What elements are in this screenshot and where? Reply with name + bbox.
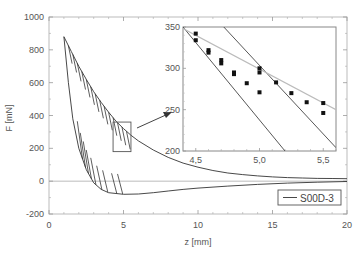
y-tick-label: 0 bbox=[39, 176, 44, 186]
y-axis-label: F [mN] bbox=[4, 105, 14, 132]
x-axis-label: z [mm] bbox=[185, 237, 212, 247]
sawtooth-spike bbox=[68, 46, 72, 64]
y-tick-label: 200 bbox=[29, 143, 44, 153]
x-tick-label: 15 bbox=[267, 220, 277, 230]
inset-data-point bbox=[245, 81, 249, 85]
arrow-line bbox=[137, 114, 168, 128]
legend-label: S00D-3 bbox=[300, 193, 334, 204]
inset-y-tick-label: 350 bbox=[165, 22, 180, 32]
x-tick-label: 10 bbox=[193, 220, 203, 230]
y-tick-label: 400 bbox=[29, 111, 44, 121]
sawtooth-spike-lower bbox=[118, 174, 123, 194]
inset-plot: 4,55,05,5200250300350 bbox=[165, 22, 336, 165]
inset-data-point bbox=[321, 111, 325, 115]
inset-data-point bbox=[258, 66, 262, 70]
inset-data-point bbox=[274, 80, 278, 84]
sawtooth-spike-lower bbox=[91, 158, 96, 185]
sawtooth-spike bbox=[73, 54, 77, 72]
inset-y-tick-label: 200 bbox=[165, 146, 180, 156]
y-tick-label: 600 bbox=[29, 78, 44, 88]
y-tick-label: 1000 bbox=[24, 12, 44, 22]
inset-data-point bbox=[194, 32, 198, 36]
y-tick-label: 800 bbox=[29, 45, 44, 55]
inset-data-point bbox=[258, 70, 262, 74]
inset-data-point bbox=[219, 61, 223, 65]
inset-x-tick-label: 5,5 bbox=[317, 155, 330, 165]
inset-data-point bbox=[321, 101, 325, 105]
inset-data-point bbox=[289, 91, 293, 95]
inset-y-tick-label: 300 bbox=[165, 63, 180, 73]
inset-data-point bbox=[305, 100, 309, 104]
inset-data-point bbox=[232, 72, 236, 76]
y-tick-label: -200 bbox=[26, 209, 44, 219]
inset-frame bbox=[183, 27, 336, 151]
legend: S00D-3 bbox=[278, 190, 341, 205]
inset-x-tick-label: 5,0 bbox=[253, 155, 266, 165]
x-tick-label: 20 bbox=[342, 220, 352, 230]
sawtooth-spike-lower bbox=[112, 173, 117, 193]
inset-y-tick-label: 250 bbox=[165, 105, 180, 115]
inset-data-point bbox=[194, 38, 198, 42]
chart: 05101520-20002004006008001000z [mm]F [mN… bbox=[0, 0, 362, 253]
inset-x-tick-label: 4,5 bbox=[189, 155, 202, 165]
x-tick-label: 0 bbox=[46, 220, 51, 230]
inset-data-point bbox=[258, 90, 262, 94]
x-tick-label: 5 bbox=[121, 220, 126, 230]
sawtooth-spike bbox=[77, 63, 81, 81]
inset-data-point bbox=[207, 51, 211, 55]
